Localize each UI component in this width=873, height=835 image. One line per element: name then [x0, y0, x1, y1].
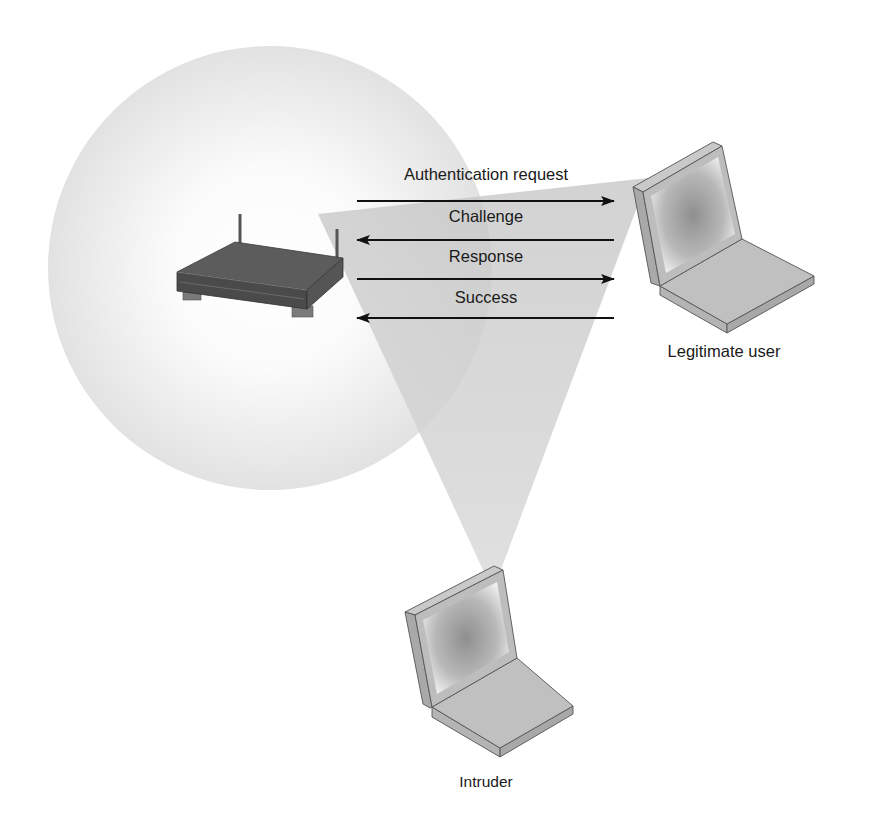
laptop-icon	[633, 142, 814, 333]
message-label: Response	[449, 247, 523, 265]
message-label: Success	[455, 288, 517, 306]
message-label: Authentication request	[404, 165, 569, 183]
authentication-diagram: Authentication request Challenge Respons…	[0, 0, 873, 835]
message-label: Challenge	[449, 207, 523, 225]
intruder-label: Intruder	[459, 773, 512, 790]
legitimate-user-label: Legitimate user	[668, 342, 781, 360]
laptop-icon	[405, 566, 573, 757]
intruder-laptop: Intruder	[405, 566, 573, 790]
legitimate-user-laptop: Legitimate user	[633, 142, 814, 360]
